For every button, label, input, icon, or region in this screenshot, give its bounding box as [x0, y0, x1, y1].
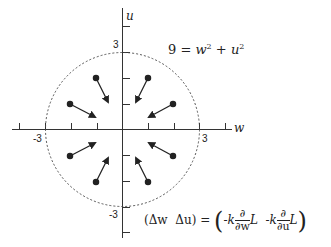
gradient-descent-diagram: u w -3 3 3 -3 9 = w2 + u2 (Δw Δu) = (-k∂…: [0, 0, 331, 247]
y-axis-label: u: [126, 9, 134, 23]
circle-equation: 9 = w2 + u2: [168, 42, 244, 57]
x-tick-3: 3: [202, 133, 208, 144]
x-axis-label: w: [234, 121, 244, 135]
y-axis: [123, 8, 131, 238]
y-tick-3: 3: [113, 39, 119, 50]
y-tick-neg3: -3: [109, 209, 118, 220]
x-tick-neg3: -3: [33, 133, 42, 144]
update-rule-equation: (Δw Δu) = (-k∂∂wL -k∂∂uL): [144, 208, 307, 233]
